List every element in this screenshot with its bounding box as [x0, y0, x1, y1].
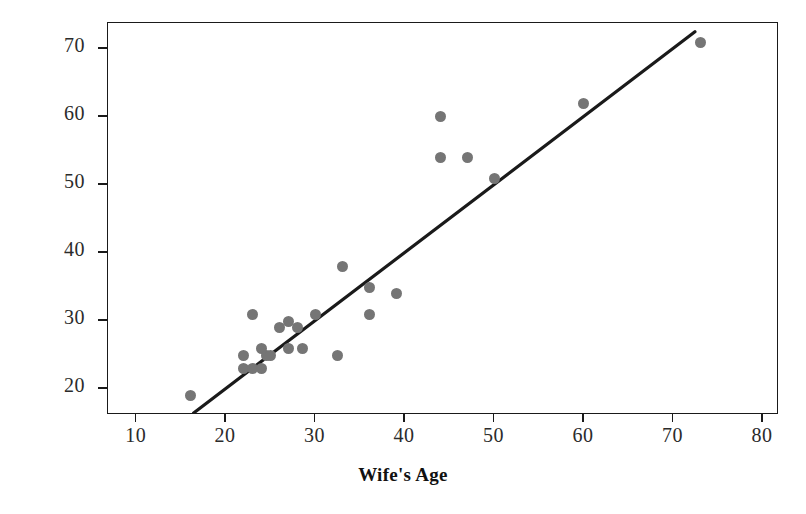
- x-tick-label: 30: [285, 424, 345, 447]
- data-point: [489, 173, 500, 184]
- x-tick-mark: [582, 414, 584, 422]
- data-point: [364, 282, 375, 293]
- data-point: [238, 350, 249, 361]
- data-point: [364, 309, 375, 320]
- data-point: [256, 363, 267, 374]
- y-tick-label: 60: [25, 102, 85, 125]
- y-tick-label: 30: [25, 306, 85, 329]
- y-tick-label: 40: [25, 238, 85, 261]
- scatter-plot-figure: 1020304050607080 203040506070 Wife's Age…: [0, 0, 806, 514]
- data-point: [297, 343, 308, 354]
- data-point: [391, 288, 402, 299]
- x-tick-label: 60: [553, 424, 613, 447]
- data-point: [435, 152, 446, 163]
- x-tick-label: 10: [106, 424, 166, 447]
- x-tick-mark: [135, 414, 137, 422]
- data-point: [578, 98, 589, 109]
- data-point: [292, 322, 303, 333]
- data-point: [332, 350, 343, 361]
- data-point: [310, 309, 321, 320]
- data-point: [337, 261, 348, 272]
- x-tick-mark: [224, 414, 226, 422]
- data-point: [185, 390, 196, 401]
- y-tick-label: 70: [25, 34, 85, 57]
- x-tick-mark: [403, 414, 405, 422]
- plot-area: [107, 22, 778, 414]
- data-point: [265, 350, 276, 361]
- data-point: [247, 309, 258, 320]
- x-tick-label: 40: [374, 424, 434, 447]
- x-tick-label: 80: [732, 424, 792, 447]
- x-tick-label: 20: [195, 424, 255, 447]
- y-tick-mark: [98, 319, 107, 321]
- y-tick-label: 20: [25, 374, 85, 397]
- x-tick-label: 50: [463, 424, 523, 447]
- y-tick-mark: [98, 251, 107, 253]
- data-point: [435, 111, 446, 122]
- y-tick-mark: [98, 387, 107, 389]
- y-tick-mark: [98, 115, 107, 117]
- y-tick-mark: [98, 47, 107, 49]
- x-tick-mark: [493, 414, 495, 422]
- y-tick-mark: [98, 183, 107, 185]
- x-tick-mark: [672, 414, 674, 422]
- y-tick-label: 50: [25, 170, 85, 193]
- x-axis-title: Wife's Age: [0, 464, 806, 486]
- x-tick-mark: [761, 414, 763, 422]
- data-point: [695, 37, 706, 48]
- data-point: [462, 152, 473, 163]
- x-tick-label: 70: [642, 424, 702, 447]
- data-points-layer: [108, 23, 777, 413]
- data-point: [283, 343, 294, 354]
- x-tick-mark: [314, 414, 316, 422]
